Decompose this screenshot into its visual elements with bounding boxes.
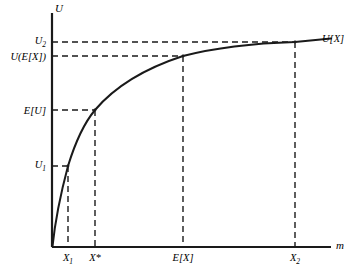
- x-tick-label-x1: X1: [63, 252, 73, 266]
- y-tick-label-u-of-ex: U(E[X]): [10, 51, 46, 62]
- marker-point-x2: [294, 41, 297, 44]
- x-axis-label: m: [336, 239, 344, 251]
- y-tick-label-u1: U1: [35, 159, 46, 173]
- utility-curve: [53, 39, 332, 247]
- utility-function-figure: U m U[X] U2 U(E[X]) E[U] U1 X1 X* E[X] X…: [0, 0, 352, 274]
- plot-canvas: [0, 0, 352, 274]
- marker-point-xstar: [94, 109, 97, 112]
- y-axis-label: U: [55, 2, 63, 14]
- marker-point-x1: [67, 165, 70, 168]
- x-tick-label-xstar: X*: [89, 252, 101, 263]
- y-tick-label-u2: U2: [35, 35, 46, 49]
- x-tick-label-ex: E[X]: [173, 252, 194, 263]
- marker-point-ex: [182, 55, 185, 58]
- curve-label: U[X]: [322, 33, 344, 44]
- x-tick-label-x2: X2: [290, 252, 300, 266]
- y-tick-label-eu: E[U]: [24, 105, 46, 116]
